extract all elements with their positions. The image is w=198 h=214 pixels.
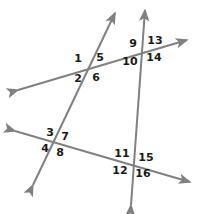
angle-label-9: 9 bbox=[129, 38, 137, 49]
angle-label-3: 3 bbox=[46, 127, 54, 138]
geometry-lines-svg bbox=[0, 0, 198, 214]
line-upper-transversal bbox=[18, 40, 187, 90]
angle-label-11: 11 bbox=[114, 148, 129, 159]
line-lower-transversal bbox=[15, 131, 190, 182]
angle-label-13: 13 bbox=[147, 35, 162, 46]
angle-label-16: 16 bbox=[135, 168, 150, 179]
angle-label-6: 6 bbox=[92, 72, 100, 83]
angle-label-1: 1 bbox=[74, 53, 82, 64]
angle-label-8: 8 bbox=[56, 147, 64, 158]
angle-label-5: 5 bbox=[96, 52, 104, 63]
angle-label-10: 10 bbox=[122, 56, 137, 67]
angle-label-12: 12 bbox=[112, 165, 127, 176]
angle-label-2: 2 bbox=[74, 73, 82, 84]
angle-label-15: 15 bbox=[138, 152, 153, 163]
geometry-diagram: 12569101314347811121516 bbox=[0, 0, 198, 214]
angle-label-14: 14 bbox=[146, 52, 161, 63]
line-left-slanted-line bbox=[33, 13, 115, 185]
angle-label-4: 4 bbox=[41, 143, 49, 154]
angle-label-7: 7 bbox=[61, 131, 69, 142]
lines-group bbox=[15, 10, 190, 205]
